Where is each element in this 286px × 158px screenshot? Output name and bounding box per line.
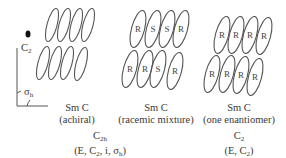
panel-achiral — [34, 7, 97, 81]
chirality-label: R — [142, 64, 148, 74]
phase-label: Sm C — [47, 102, 107, 114]
molecule — [72, 46, 90, 81]
chirality-label: R — [135, 24, 141, 34]
symmetry-c2h: C2h (E, C2, i, σh) — [60, 130, 140, 158]
chirality-label: S — [150, 24, 155, 34]
chirality-label: S — [164, 24, 169, 34]
chirality-label: R — [178, 24, 184, 34]
chirality-label: R — [233, 30, 239, 40]
caption-achiral: Sm C (achiral) — [47, 102, 107, 126]
sigma-h-label: σh — [24, 86, 33, 101]
sigma-tick — [17, 91, 21, 93]
panel-enantiomer — [201, 15, 275, 97]
symmetry-elements-label: (E, C2, i, σh) — [60, 145, 140, 158]
chirality-label: R — [252, 72, 258, 82]
panel-racemic — [119, 9, 192, 91]
phase-label: Sm C — [194, 102, 284, 114]
chirality-label: R — [127, 64, 133, 74]
description-label: (achiral) — [47, 114, 107, 126]
chirality-label: R — [247, 30, 253, 40]
c2-axis-dot-icon — [26, 31, 31, 38]
point-group-label: C2h — [60, 130, 140, 145]
chirality-label: R — [238, 70, 244, 80]
caption-enantiomer: Sm C (one enantiomer) — [194, 102, 284, 126]
chirality-label: R — [209, 69, 215, 79]
chirality-label: S — [155, 64, 160, 74]
symmetry-c2: C2 (E, C2) — [209, 130, 269, 158]
chirality-label: R — [224, 69, 230, 79]
symmetry-elements-label: (E, C2) — [209, 145, 269, 158]
description-label: (racemic mixture) — [115, 114, 197, 126]
chirality-label: R — [261, 31, 267, 41]
chirality-label: R — [219, 30, 225, 40]
chirality-label: R — [172, 66, 178, 76]
phase-label: Sm C — [115, 102, 197, 114]
description-label: (one enantiomer) — [194, 114, 284, 126]
caption-racemic: Sm C (racemic mixture) — [115, 102, 197, 126]
c2-axis-label: C2 — [21, 42, 32, 57]
point-group-label: C2 — [209, 130, 269, 145]
